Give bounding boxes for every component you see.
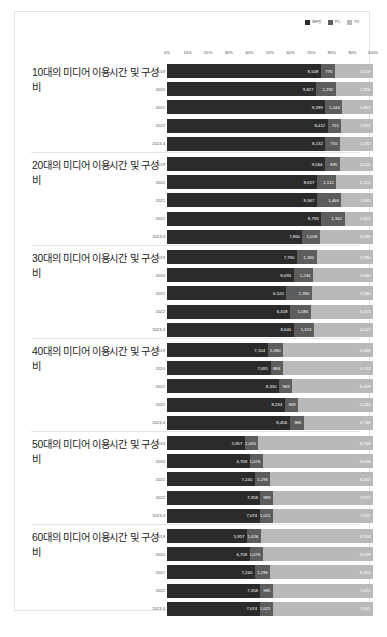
bar-segment-pc[interactable]: 1,008 — [302, 230, 319, 244]
bar-segment-mobile[interactable]: 5,957 — [167, 529, 247, 543]
legend-item-mobile[interactable]: 모바일 — [305, 20, 321, 25]
bar-segment-mobile[interactable]: 8,132 — [167, 137, 325, 151]
bar-segment-pc[interactable]: 755 — [325, 137, 340, 151]
bar-segment-pc[interactable]: 1,296 — [255, 472, 271, 486]
bar-segment-pc[interactable]: 939 — [285, 398, 298, 412]
bar-segment-pc[interactable]: 776 — [321, 64, 335, 78]
bar-segment-tv[interactable]: 8,358 — [261, 529, 373, 543]
bar-segment-mobile[interactable]: 8,412 — [167, 119, 328, 133]
bar-segment-mobile[interactable]: 6,418 — [167, 305, 290, 319]
bar-segment-tv[interactable]: 8,453 — [270, 565, 372, 579]
bar-segment-pc[interactable]: 1,076 — [250, 547, 263, 561]
bar-segment-mobile[interactable]: 8,508 — [167, 64, 321, 78]
bar-segment-mobile[interactable]: 8,330 — [167, 379, 279, 393]
stacked-bar[interactable]: 9,5991,0441,862 — [167, 100, 373, 114]
bar-segment-tv[interactable]: 9,009 — [263, 547, 373, 561]
bar-segment-mobile[interactable]: 9,564 — [167, 157, 325, 171]
bar-segment-tv[interactable]: 5,243 — [298, 398, 373, 412]
bar-segment-pc[interactable]: 884 — [271, 361, 283, 375]
stacked-bar[interactable]: 8,6401,3744,027 — [167, 323, 373, 337]
stacked-bar[interactable]: 7,8601,0083,088 — [167, 230, 373, 244]
bar-segment-tv[interactable]: 2,456 — [336, 82, 373, 96]
bar-segment-pc[interactable]: 986 — [290, 416, 304, 430]
bar-segment-tv[interactable]: 7,631 — [273, 509, 373, 523]
bar-segment-pc[interactable]: 1,244 — [294, 268, 313, 282]
bar-segment-tv[interactable]: 4,027 — [314, 323, 373, 337]
stacked-bar[interactable]: 8,2349395,243 — [167, 398, 373, 412]
stacked-bar[interactable]: 7,6918846,711 — [167, 361, 373, 375]
stacked-bar[interactable]: 8,7931,3411,622 — [167, 212, 373, 226]
bar-segment-tv[interactable]: 7,631 — [273, 602, 373, 616]
stacked-bar[interactable]: 7,0741,0217,631 — [167, 509, 373, 523]
bar-segment-mobile[interactable]: 8,234 — [167, 398, 285, 412]
bar-segment-pc[interactable]: 1,090 — [268, 343, 283, 357]
bar-segment-tv[interactable]: 2,122 — [336, 175, 373, 189]
bar-segment-pc[interactable]: 1,296 — [255, 565, 271, 579]
bar-segment-pc[interactable]: 715 — [328, 119, 342, 133]
stacked-bar[interactable]: 7,2401,2968,453 — [167, 565, 373, 579]
bar-segment-tv[interactable]: 1,885 — [341, 193, 373, 207]
bar-segment-pc[interactable]: 1,026 — [245, 436, 258, 450]
legend-item-pc[interactable]: PC — [328, 20, 340, 25]
bar-segment-pc[interactable]: 969 — [279, 379, 292, 393]
bar-segment-mobile[interactable]: 8,793 — [167, 212, 321, 226]
bar-segment-mobile[interactable]: 9,599 — [167, 100, 325, 114]
bar-segment-pc[interactable]: 1,341 — [321, 212, 344, 226]
bar-segment-tv[interactable]: 7,873 — [273, 584, 373, 598]
stacked-bar[interactable]: 7,3589857,873 — [167, 584, 373, 598]
bar-segment-tv[interactable]: 3,380 — [317, 250, 373, 264]
stacked-bar[interactable]: 6,7581,0769,009 — [167, 547, 373, 561]
bar-segment-pc[interactable]: 1,021 — [260, 602, 273, 616]
stacked-bar[interactable]: 7,3589837,873 — [167, 491, 373, 505]
bar-segment-tv[interactable]: 3,251 — [311, 305, 373, 319]
bar-segment-tv[interactable]: 6,348 — [283, 343, 373, 357]
stacked-bar[interactable]: 6,7581,0769,009 — [167, 454, 373, 468]
bar-segment-mobile[interactable]: 6,758 — [167, 547, 250, 561]
stacked-bar[interactable]: 8,1327551,692 — [167, 137, 373, 151]
bar-segment-mobile[interactable]: 7,074 — [167, 602, 260, 616]
bar-segment-mobile[interactable]: 7,240 — [167, 472, 255, 486]
stacked-bar[interactable]: 9,8271,2922,456 — [167, 82, 373, 96]
legend-item-tv[interactable]: TV — [347, 20, 359, 25]
bar-segment-mobile[interactable]: 8,456 — [167, 416, 290, 430]
bar-segment-tv[interactable]: 2,016 — [340, 157, 373, 171]
bar-segment-tv[interactable]: 9,009 — [263, 454, 373, 468]
bar-segment-mobile[interactable]: 5,957 — [167, 436, 245, 450]
stacked-bar[interactable]: 8,4127151,655 — [167, 119, 373, 133]
bar-segment-pc[interactable]: 1,083 — [290, 305, 311, 319]
bar-segment-pc[interactable]: 1,374 — [294, 323, 314, 337]
bar-segment-tv[interactable]: 4,768 — [304, 416, 373, 430]
stacked-bar[interactable]: 7,0741,0217,631 — [167, 602, 373, 616]
bar-segment-mobile[interactable]: 8,640 — [167, 323, 294, 337]
bar-segment-pc[interactable]: 1,044 — [325, 100, 342, 114]
bar-segment-tv[interactable]: 6,009 — [292, 379, 373, 393]
bar-segment-mobile[interactable]: 8,947 — [167, 193, 317, 207]
bar-segment-mobile[interactable]: 7,240 — [167, 565, 255, 579]
stacked-bar[interactable]: 6,5201,3903,340 — [167, 286, 373, 300]
stacked-bar[interactable]: 8,6571,1122,122 — [167, 175, 373, 189]
bar-segment-pc[interactable]: 1,076 — [250, 454, 263, 468]
bar-segment-mobile[interactable]: 7,358 — [167, 584, 260, 598]
bar-segment-mobile[interactable]: 6,758 — [167, 454, 250, 468]
stacked-bar[interactable]: 7,7901,1823,380 — [167, 250, 373, 264]
bar-segment-tv[interactable]: 2,109 — [335, 64, 373, 78]
bar-segment-pc[interactable]: 895 — [325, 157, 340, 171]
bar-segment-mobile[interactable]: 9,827 — [167, 82, 316, 96]
stacked-bar[interactable]: 6,4181,0833,251 — [167, 305, 373, 319]
stacked-bar[interactable]: 8,4569864,768 — [167, 416, 373, 430]
bar-segment-pc[interactable]: 1,112 — [317, 175, 336, 189]
stacked-bar[interactable]: 9,5648952,016 — [167, 157, 373, 171]
stacked-bar[interactable]: 8,3309696,009 — [167, 379, 373, 393]
bar-segment-tv[interactable]: 8,453 — [270, 472, 372, 486]
bar-segment-pc[interactable]: 1,026 — [247, 529, 261, 543]
bar-segment-mobile[interactable]: 8,093 — [167, 268, 294, 282]
bar-segment-pc[interactable]: 1,292 — [316, 82, 336, 96]
bar-segment-mobile[interactable]: 6,520 — [167, 286, 286, 300]
stacked-bar[interactable]: 7,2401,2968,453 — [167, 472, 373, 486]
bar-segment-tv[interactable]: 1,692 — [340, 137, 373, 151]
bar-segment-tv[interactable]: 3,340 — [312, 286, 373, 300]
bar-segment-pc[interactable]: 1,390 — [286, 286, 311, 300]
bar-segment-pc[interactable]: 985 — [260, 584, 272, 598]
stacked-bar[interactable]: 5,9571,0268,768 — [167, 436, 373, 450]
bar-segment-mobile[interactable]: 7,860 — [167, 230, 302, 244]
